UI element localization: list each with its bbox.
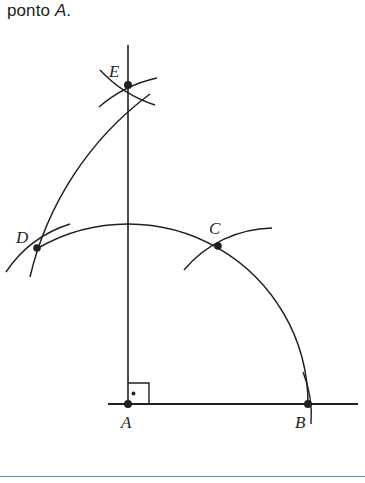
point-dot-D [33, 244, 41, 252]
point-label-A: A [120, 413, 132, 432]
point-label-C: C [209, 219, 221, 238]
tick-arc-through-C [184, 228, 272, 270]
section-divider [0, 476, 365, 477]
geometric-construction-figure: A B C D E [0, 0, 365, 483]
point-label-B: B [295, 413, 306, 432]
point-label-D: D [15, 228, 29, 247]
diagram-page: ponto A. A B [0, 0, 365, 483]
right-angle-marker-at-A [128, 383, 149, 404]
point-dot-A [124, 400, 132, 408]
main-arc-D-C-B [38, 224, 308, 404]
point-label-E: E [108, 62, 120, 81]
arc-from-B-through-D-to-E [30, 94, 150, 277]
point-dot-B [304, 400, 312, 408]
point-dot-E [124, 81, 132, 89]
point-dot-C [214, 242, 222, 250]
